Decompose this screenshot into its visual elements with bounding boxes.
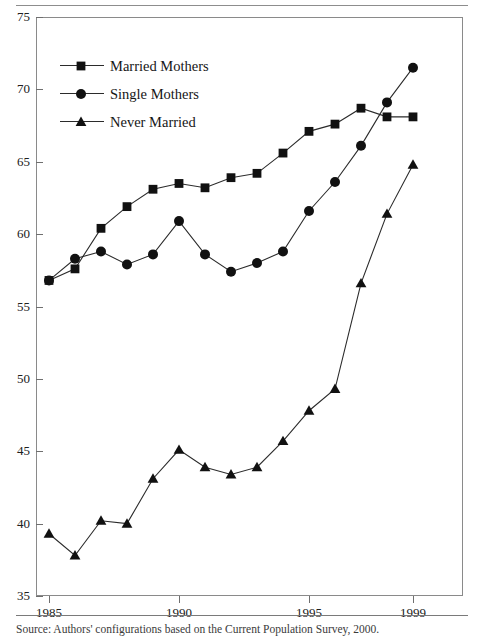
square-marker: [409, 112, 418, 121]
circle-marker: [252, 258, 262, 268]
circle-marker: [122, 260, 132, 270]
square-marker: [253, 169, 262, 178]
series-line: [49, 165, 413, 556]
triangle-marker: [44, 528, 55, 537]
triangle-marker: [304, 405, 315, 414]
triangle-marker: [76, 117, 87, 126]
circle-marker: [70, 254, 80, 264]
legend-label: Never Married: [104, 114, 196, 130]
triangle-marker: [356, 278, 367, 287]
circle-marker: [44, 275, 54, 285]
triangle-marker: [330, 384, 341, 393]
square-marker: [149, 185, 158, 194]
circle-marker: [304, 206, 314, 216]
bottom-rule: [16, 615, 468, 616]
square-marker: [383, 112, 392, 121]
legend-item-never-married[interactable]: Never Married: [60, 108, 209, 136]
legend-label: Single Mothers: [104, 86, 199, 102]
triangle-marker: [382, 208, 393, 217]
square-marker: [71, 264, 80, 273]
legend-item-married-mothers[interactable]: Married Mothers: [60, 52, 209, 80]
triangle-marker: [408, 159, 419, 168]
circle-marker: [356, 141, 366, 151]
square-marker: [175, 179, 184, 188]
square-marker: [279, 149, 288, 158]
triangle-marker: [96, 515, 107, 524]
circle-marker: [200, 249, 210, 259]
legend-key: [60, 113, 104, 131]
square-marker: [123, 202, 132, 211]
square-marker: [331, 120, 340, 129]
triangle-marker: [200, 462, 211, 471]
square-marker: [201, 183, 210, 192]
circle-marker: [226, 267, 236, 277]
circle-marker: [382, 97, 392, 107]
legend-key: [60, 57, 104, 75]
square-marker: [74, 59, 88, 73]
circle-marker: [330, 177, 340, 187]
chart-legend: Married MothersSingle MothersNever Marri…: [60, 52, 209, 136]
circle-marker: [278, 246, 288, 256]
series-never-married: [44, 159, 419, 559]
circle-marker: [408, 63, 418, 73]
circle-marker: [174, 216, 184, 226]
legend-key: [60, 85, 104, 103]
square-marker: [357, 104, 366, 113]
triangle-marker: [74, 115, 88, 129]
circle-marker: [96, 246, 106, 256]
square-marker: [305, 127, 314, 136]
triangle-marker: [174, 444, 185, 453]
legend-item-single-mothers[interactable]: Single Mothers: [60, 80, 209, 108]
figure-container: 757065605550454035 1985199019951999 Marr…: [0, 0, 484, 637]
square-marker: [97, 224, 106, 233]
source-note: Source: Authors' configurations based on…: [16, 623, 468, 636]
square-marker: [227, 173, 236, 182]
circle-marker: [74, 87, 88, 101]
circle-marker: [76, 89, 86, 99]
square-marker: [77, 62, 86, 71]
legend-label: Married Mothers: [104, 58, 209, 74]
triangle-marker: [70, 550, 81, 559]
circle-marker: [148, 249, 158, 259]
